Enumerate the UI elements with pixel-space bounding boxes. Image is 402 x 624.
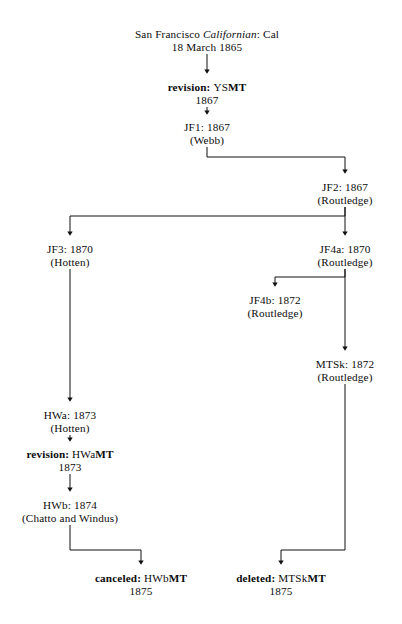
node-mtsk-line1: MTSk: 1872 (316, 358, 374, 371)
node-jf3-line1: JF3: 1870 (47, 243, 93, 256)
node-ysmt: revision: YSMT 1867 (168, 81, 247, 107)
node-jf1-line1: JF1: 1867 (184, 121, 230, 134)
node-hwa-line2: (Hotten) (44, 422, 96, 435)
node-jf4b-line2: (Routledge) (247, 307, 302, 320)
node-cal: San Francisco Californian: Cal 18 March … (135, 28, 279, 54)
node-hwamt-line2: 1873 (26, 461, 113, 474)
node-jf4a-line2: (Routledge) (317, 256, 372, 269)
edge-jf1-jf2 (207, 147, 345, 172)
node-hwbmt-line1: canceled: HWbMT (95, 572, 187, 585)
node-jf2-line1: JF2: 1867 (317, 181, 372, 194)
node-jf4b: JF4b: 1872 (Routledge) (247, 294, 302, 320)
node-jf2: JF2: 1867 (Routledge) (317, 181, 372, 207)
edge-mtsk-mtskmt (281, 384, 345, 563)
node-mtskmt-line1: deleted: MTSkMT (236, 572, 326, 585)
node-hwb-line1: HWb: 1874 (22, 499, 118, 512)
node-hwa: HWa: 1873 (Hotten) (44, 409, 96, 435)
node-mtsk: MTSk: 1872 (Routledge) (316, 358, 374, 384)
node-cal-line2: 18 March 1865 (135, 41, 279, 54)
node-jf4b-line1: JF4b: 1872 (247, 294, 302, 307)
node-hwbmt: canceled: HWbMT 1875 (95, 572, 187, 598)
node-hwb-line2: (Chatto and Windus) (22, 512, 118, 525)
node-hwb: HWb: 1874 (Chatto and Windus) (22, 499, 118, 525)
node-mtskmt: deleted: MTSkMT 1875 (236, 572, 326, 598)
edge-jf2-jf3 (70, 207, 345, 234)
node-hwbmt-line2: 1875 (95, 585, 187, 598)
edge-hwb-hwbmt (70, 525, 141, 563)
node-jf4a-line1: JF4a: 1870 (317, 243, 372, 256)
node-mtskmt-line2: 1875 (236, 585, 326, 598)
node-hwamt-line1: revision: HWaMT (26, 448, 113, 461)
node-jf4a: JF4a: 1870 (Routledge) (317, 243, 372, 269)
stemma-diagram: San Francisco Californian: Cal 18 March … (0, 0, 402, 624)
node-jf2-line2: (Routledge) (317, 194, 372, 207)
node-ysmt-line1: revision: YSMT (168, 81, 247, 94)
node-hwa-line1: HWa: 1873 (44, 409, 96, 422)
node-jf3: JF3: 1870 (Hotten) (47, 243, 93, 269)
edge-jf4a-jf4b (275, 269, 345, 285)
node-jf3-line2: (Hotten) (47, 256, 93, 269)
node-jf1: JF1: 1867 (Webb) (184, 121, 230, 147)
node-ysmt-line2: 1867 (168, 94, 247, 107)
node-hwamt: revision: HWaMT 1873 (26, 448, 113, 474)
node-mtsk-line2: (Routledge) (316, 371, 374, 384)
node-jf1-line2: (Webb) (184, 134, 230, 147)
node-cal-line1: San Francisco Californian: Cal (135, 28, 279, 41)
